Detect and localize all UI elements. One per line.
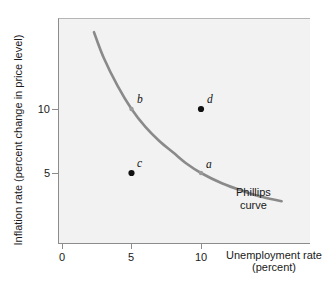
phillips-curve-path bbox=[94, 32, 282, 201]
data-point-b bbox=[129, 107, 133, 111]
data-point-d bbox=[198, 106, 204, 112]
data-point-c bbox=[128, 170, 134, 176]
phillips-curve-annotation: Phillips curve bbox=[236, 186, 271, 211]
chart-canvas bbox=[0, 0, 332, 288]
data-point-a bbox=[199, 171, 203, 175]
point-label-c: c bbox=[137, 157, 142, 169]
phillips-curve-annotation-line2: curve bbox=[236, 199, 271, 212]
point-label-b: b bbox=[137, 93, 143, 105]
point-label-a: a bbox=[206, 158, 212, 170]
phillips-curve-annotation-line1: Phillips bbox=[236, 186, 271, 199]
phillips-curve-figure: 0 5 10 5 10 Inflation rate (percent chan… bbox=[0, 0, 332, 288]
point-label-d: d bbox=[207, 93, 213, 105]
